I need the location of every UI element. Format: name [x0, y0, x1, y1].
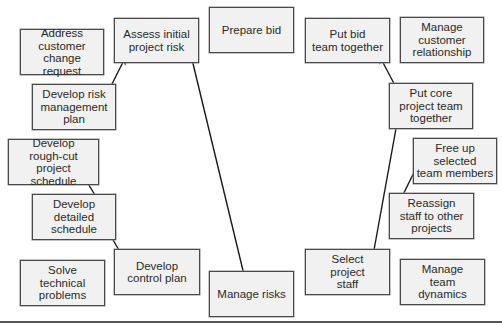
- box-develop-rough-cut-project-schedule: Develop rough-cut project schedule: [8, 139, 99, 185]
- box-manage-team-dynamics: Manage team dynamics: [400, 259, 485, 305]
- box-develop-control-plan: Develop control plan: [114, 249, 200, 295]
- arrow-assess-risk-to-manage-risks: [189, 47, 246, 283]
- box-prepare-bid: Prepare bid: [209, 7, 294, 53]
- box-develop-risk-management-plan: Develop risk management plan: [32, 84, 116, 130]
- box-reassign-staff-to-other-projects: Reassign staff to other projects: [389, 193, 474, 239]
- box-develop-detailed-schedule: Develop detailed schedule: [32, 194, 116, 240]
- box-manage-risks: Manage risks: [209, 271, 294, 317]
- box-put-core-project-team-together: Put core project team together: [389, 83, 473, 129]
- box-free-up-selected-team-members: Free up selected team members: [413, 138, 497, 184]
- box-assess-initial-project-risk: Assess initial project risk: [114, 18, 199, 63]
- box-select-project-staff: Select project staff: [305, 249, 390, 295]
- box-put-bid-team-together: Put bid team together: [305, 18, 390, 63]
- box-solve-technical-problems: Solve technical problems: [20, 260, 105, 306]
- bottom-divider: [0, 321, 502, 323]
- box-manage-customer-relationship: Manage customer relationship: [400, 17, 484, 63]
- box-address-customer-change-request: Address customer change request: [20, 29, 104, 75]
